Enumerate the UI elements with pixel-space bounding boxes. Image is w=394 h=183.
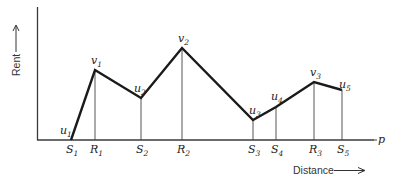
label-r2: R2	[176, 143, 190, 158]
label-u3: u3	[249, 104, 261, 119]
label-s5: S5	[337, 143, 350, 158]
x-axis-label: Distance	[293, 164, 334, 176]
label-v2: v2	[178, 32, 189, 47]
label-r3: R3	[308, 143, 322, 158]
label-r1: R1	[89, 143, 103, 158]
y-axis-label: Rent	[10, 54, 22, 76]
label-u1: u1	[60, 124, 72, 139]
x-axis-label-group: Distance	[293, 164, 365, 176]
label-s1: S1	[66, 143, 78, 158]
label-u4: u4	[271, 90, 283, 105]
baseline-labels: S1 R1 S2 R2 S3 S4 R3 S5	[66, 143, 350, 158]
label-s4: S4	[271, 143, 284, 158]
label-u2: u2	[134, 82, 146, 97]
label-v1: v1	[91, 54, 102, 69]
rent-curve	[71, 48, 342, 140]
label-u5: u5	[339, 78, 351, 93]
y-axis-label-group: Rent	[10, 25, 22, 76]
axis-end-label: p	[378, 133, 385, 146]
drop-lines	[95, 48, 342, 140]
label-s3: S3	[248, 143, 261, 158]
label-s2: S2	[136, 143, 149, 158]
label-v3: v3	[310, 66, 321, 81]
rent-distance-diagram: Rent u1 v1 u2 v2 u3 u4 v3 u5 S1 R1 S2 R2…	[0, 0, 394, 183]
